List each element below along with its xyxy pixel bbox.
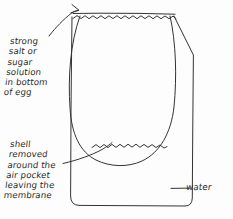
solution-surface-wave: [92, 144, 167, 148]
arrow-to-water-surface-head: [71, 5, 79, 13]
label-solution-text: strong salt or sugar solution in bottom …: [3, 36, 53, 98]
sketch-canvas: strong salt or sugar solution in bottom …: [0, 0, 233, 219]
label-water-text: water: [185, 182, 212, 192]
label-shell-text: shell removed around the air pocket leav…: [3, 139, 60, 201]
water-surface-wave: [73, 16, 176, 19]
jar-outline: [71, 16, 194, 206]
water-surface-top-line: [73, 13, 175, 14]
arrow-to-water-surface-shaft: [49, 10, 79, 36]
egg-outline: [69, 16, 175, 166]
